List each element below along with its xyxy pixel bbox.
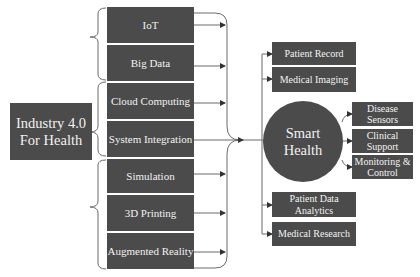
output-box-medical-imaging: Medical Imaging: [272, 67, 356, 92]
brace-3: [90, 160, 106, 269]
industry-4-health-box: Industry 4.0 For Health: [10, 103, 92, 160]
hub-output-box-disease-sensors: Disease Sensors: [352, 102, 413, 126]
output-box-label: Patient Data Analytics: [272, 193, 356, 215]
hub-output-box-label: Disease Sensors: [352, 103, 413, 125]
hub-output-box-clinical-support: Clinical Support: [352, 129, 413, 153]
tech-box-big-data: Big Data: [107, 45, 194, 81]
hub-output-box-label: Clinical Support: [352, 130, 413, 152]
source-label: Industry 4.0 For Health: [16, 115, 86, 147]
output-box-medical-research: Medical Research: [272, 222, 356, 246]
tech-box-simulation: Simulation: [107, 159, 194, 193]
smart-health-hub: Smart Health: [263, 101, 343, 182]
tech-box-label: Big Data: [131, 57, 170, 69]
tech-box-3d-printing: 3D Printing: [107, 195, 194, 231]
tech-box-iot: IoT: [107, 7, 194, 43]
brace-1: [90, 8, 106, 80]
hub-output-box-label: Monitoring & Control: [352, 156, 413, 178]
tech-box-label: System Integration: [109, 133, 192, 145]
output-box-label: Medical Imaging: [280, 74, 349, 85]
output-box-patient-record: Patient Record: [272, 42, 356, 65]
output-box-label: Medical Research: [278, 228, 350, 239]
tech-box-augmented-reality: Augmented Reality: [107, 233, 194, 269]
tech-box-label: IoT: [143, 19, 159, 31]
output-box-label: Patient Record: [284, 48, 343, 59]
tech-box-label: Simulation: [126, 170, 174, 182]
output-box-patient-data-analytics: Patient Data Analytics: [272, 192, 356, 217]
hub-output-box-monitoring-control: Monitoring & Control: [352, 155, 413, 179]
tech-box-cloud-computing: Cloud Computing: [107, 83, 194, 119]
tech-box-label: Augmented Reality: [108, 245, 194, 257]
hub-label: Smart Health: [284, 125, 323, 158]
tech-box-system-integration: System Integration: [107, 121, 194, 157]
tech-box-label: 3D Printing: [125, 207, 177, 219]
brace-2: [90, 82, 106, 156]
tech-box-label: Cloud Computing: [111, 95, 190, 107]
